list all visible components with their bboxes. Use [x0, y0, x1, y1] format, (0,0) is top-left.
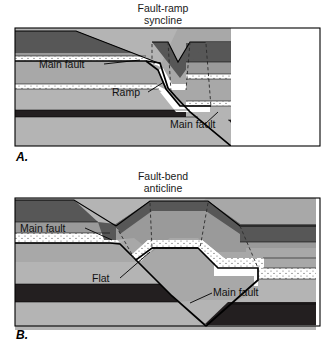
bed-middle-gray-right — [186, 79, 320, 101]
panel-b-beds — [15, 198, 320, 330]
panel-a-title-line2: syncline — [144, 14, 182, 26]
label-main-fault-lower-a: Main fault — [170, 118, 216, 130]
panel-a-title-line1: Fault-ramp — [138, 2, 189, 14]
bed-mid-gray-left-b — [15, 243, 138, 262]
panel-b: Fault-bend anticline Main fault Flat Mai… — [15, 170, 320, 342]
bed-black-left-b — [15, 284, 178, 302]
geologic-figure: Fault-ramp syncline Main fault Ramp Main… — [0, 0, 327, 343]
label-ramp-a: Ramp — [112, 86, 140, 98]
panel-a: Fault-ramp syncline Main fault Ramp Main… — [15, 2, 322, 164]
bed-black-left — [15, 110, 198, 117]
bed-upper-gray-right — [186, 62, 320, 74]
panel-a-letter: A. — [15, 150, 28, 164]
panel-b-letter: B. — [16, 328, 28, 342]
panel-b-title-line1: Fault-bend — [138, 170, 188, 182]
label-main-fault-lower-b: Main fault — [213, 286, 259, 298]
label-flat-b: Flat — [92, 272, 110, 284]
label-main-fault-upper-b: Main fault — [20, 222, 66, 234]
bed-black-right — [228, 120, 320, 133]
bed-basal-left-b — [15, 302, 200, 324]
label-main-fault-upper-a: Main fault — [39, 58, 85, 70]
panel-b-title-line2: anticline — [144, 182, 183, 194]
